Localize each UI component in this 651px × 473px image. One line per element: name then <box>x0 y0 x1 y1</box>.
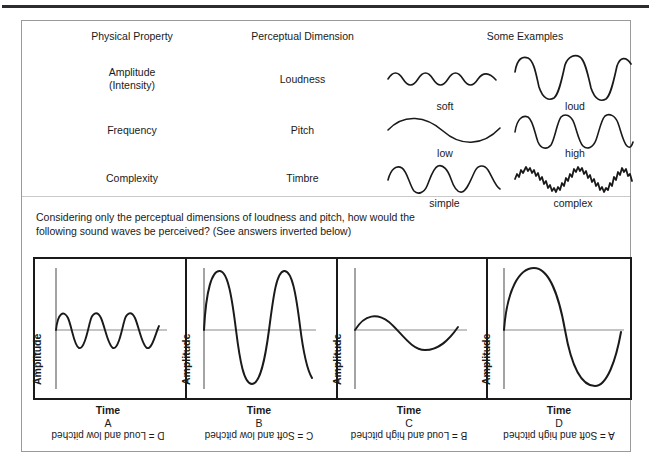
panel-c-letter: C <box>339 417 479 429</box>
panel-d-x-axis-label: Time <box>489 404 629 416</box>
panel-a-letter: A <box>38 417 178 429</box>
panel-d-answer: A = Soft and high pitched <box>483 430 635 441</box>
waveform-soft <box>386 58 504 100</box>
waveform-complex <box>513 162 635 198</box>
instruction-text: Considering only the perceptual dimensio… <box>36 211 456 238</box>
waveform-caption-loud: loud <box>535 100 615 112</box>
panel-a-answer: D = Loud and low pitched <box>32 430 184 441</box>
panel-a-y-axis-label: Amplitude <box>31 334 43 385</box>
panel-d-y-axis-label: Amplitude <box>480 334 492 385</box>
waveform-caption-complex: complex <box>528 197 618 209</box>
waveform-caption-high: high <box>535 147 615 159</box>
panel-b-y-axis-label: Amplitude <box>180 334 192 385</box>
panel-plot-c <box>337 260 483 397</box>
waveform-caption-simple: simple <box>402 197 487 209</box>
row-label-amplitude-line2: (Intensity) <box>109 79 155 91</box>
row-label-amplitude-line1: Amplitude <box>109 66 156 78</box>
waveform-low <box>386 114 504 148</box>
row-label-timbre: Timbre <box>215 172 390 185</box>
column-header-physical-property: Physical Property <box>52 30 212 42</box>
panel-c-y-axis-label: Amplitude <box>331 334 343 385</box>
panel-plot-d <box>487 260 631 397</box>
waveform-simple <box>386 162 504 198</box>
waveform-loud <box>513 54 635 106</box>
waveform-high <box>513 112 635 152</box>
row-label-amplitude: Amplitude (Intensity) <box>52 66 212 92</box>
panel-a-x-axis-label: Time <box>38 404 178 416</box>
panel-b-answer: C = Soft and low pitched <box>183 430 335 441</box>
row-label-loudness: Loudness <box>215 73 390 86</box>
panel-b-x-axis-label: Time <box>188 404 330 416</box>
row-label-complexity: Complexity <box>52 172 212 185</box>
panel-d-letter: D <box>489 417 629 429</box>
waveform-caption-low: low <box>405 147 485 159</box>
sound-properties-figure: Physical Property Perceptual Dimension S… <box>0 0 651 473</box>
waveform-caption-soft: soft <box>405 100 485 112</box>
panel-plot-a <box>36 260 182 397</box>
column-header-perceptual-dimension: Perceptual Dimension <box>215 30 390 42</box>
panel-plot-b <box>186 260 333 397</box>
row-label-frequency: Frequency <box>52 124 212 137</box>
column-header-some-examples: Some Examples <box>420 30 630 42</box>
top-rule <box>2 5 649 8</box>
panel-b-letter: B <box>188 417 330 429</box>
row-label-pitch: Pitch <box>215 124 390 137</box>
panel-c-answer: B = Loud and high pitched <box>333 430 485 441</box>
panel-c-x-axis-label: Time <box>339 404 479 416</box>
